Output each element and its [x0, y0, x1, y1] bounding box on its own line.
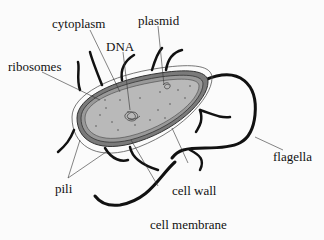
bacterial-cell-diagram: cytoplasm plasmid DNA ribosomes flagella… — [0, 0, 324, 240]
label-cell-wall: cell wall — [172, 184, 216, 197]
label-dna: DNA — [106, 40, 134, 53]
label-pili: pili — [55, 182, 72, 195]
cell-illustration — [0, 0, 324, 240]
cytoplasm-region — [85, 79, 199, 138]
label-flagella: flagella — [273, 150, 312, 163]
label-cytoplasm: cytoplasm — [52, 17, 105, 30]
label-cell-membrane: cell membrane — [150, 218, 227, 231]
label-ribosomes: ribosomes — [8, 60, 61, 73]
label-plasmid: plasmid — [138, 14, 179, 27]
